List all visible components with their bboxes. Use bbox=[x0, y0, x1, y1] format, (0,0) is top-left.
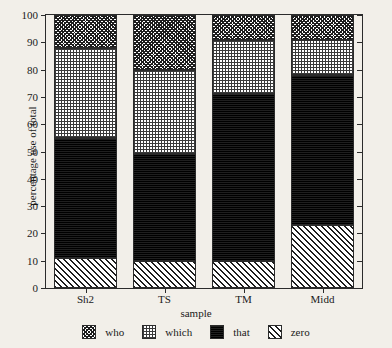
x-axis-line bbox=[45, 288, 363, 289]
y-axis-title: percentage use of total bbox=[26, 76, 38, 236]
bar-segment-ts-which[interactable] bbox=[133, 70, 196, 155]
bar-segment-midd-who[interactable] bbox=[291, 15, 354, 40]
legend-label-which: which bbox=[165, 326, 192, 338]
bar-segment-tm-that[interactable] bbox=[212, 94, 275, 261]
legend-item-which[interactable]: which bbox=[142, 325, 192, 339]
right-axis-line bbox=[362, 14, 363, 289]
legend-label-who: who bbox=[105, 326, 124, 338]
legend-label-that: that bbox=[233, 326, 250, 338]
bar-segment-midd-zero[interactable] bbox=[291, 225, 354, 288]
bar-segment-tm-zero[interactable] bbox=[212, 261, 275, 288]
bar-segment-sh2-that[interactable] bbox=[54, 138, 117, 258]
legend-swatch-that bbox=[210, 325, 224, 339]
legend-swatch-which bbox=[142, 325, 156, 339]
bar-segment-ts-that[interactable] bbox=[133, 154, 196, 260]
bar-sh2[interactable] bbox=[54, 15, 117, 288]
bar-segment-tm-which[interactable] bbox=[212, 40, 275, 95]
x-tick-label-tm: TM bbox=[204, 293, 284, 305]
y-tick-label: 100 bbox=[12, 10, 38, 21]
bar-segment-sh2-who[interactable] bbox=[54, 15, 117, 48]
x-tick-label-midd: Midd bbox=[283, 293, 363, 305]
x-tick-label-ts: TS bbox=[125, 293, 205, 305]
y-tick-label: 90 bbox=[12, 37, 38, 48]
legend-swatch-who bbox=[82, 325, 96, 339]
bar-tm[interactable] bbox=[212, 15, 275, 288]
legend-item-that[interactable]: that bbox=[210, 325, 250, 339]
y-tick bbox=[41, 288, 46, 289]
bar-segment-sh2-which[interactable] bbox=[54, 48, 117, 138]
y-tick-label: 10 bbox=[12, 256, 38, 267]
chart-legend: whowhichthatzero bbox=[0, 322, 392, 342]
legend-item-zero[interactable]: zero bbox=[268, 325, 310, 339]
stacked-bar-chart: 0102030405060708090100 percentage use of… bbox=[0, 0, 392, 348]
legend-item-who[interactable]: who bbox=[82, 325, 124, 339]
y-tick-right bbox=[357, 288, 362, 289]
y-tick-label: 80 bbox=[12, 65, 38, 76]
bar-segment-tm-who[interactable] bbox=[212, 15, 275, 40]
x-tick-label-sh2: Sh2 bbox=[46, 293, 126, 305]
legend-swatch-zero bbox=[268, 325, 282, 339]
bar-segment-midd-that[interactable] bbox=[291, 75, 354, 225]
plot-area bbox=[46, 15, 362, 288]
bar-ts[interactable] bbox=[133, 15, 196, 288]
y-tick-label: 0 bbox=[12, 283, 38, 294]
bar-segment-sh2-zero[interactable] bbox=[54, 258, 117, 288]
x-axis-title: sample bbox=[0, 307, 392, 319]
bar-segment-ts-who[interactable] bbox=[133, 15, 196, 70]
bar-segment-ts-zero[interactable] bbox=[133, 261, 196, 288]
legend-label-zero: zero bbox=[291, 326, 310, 338]
bar-segment-midd-which[interactable] bbox=[291, 40, 354, 75]
bar-midd[interactable] bbox=[291, 15, 354, 288]
